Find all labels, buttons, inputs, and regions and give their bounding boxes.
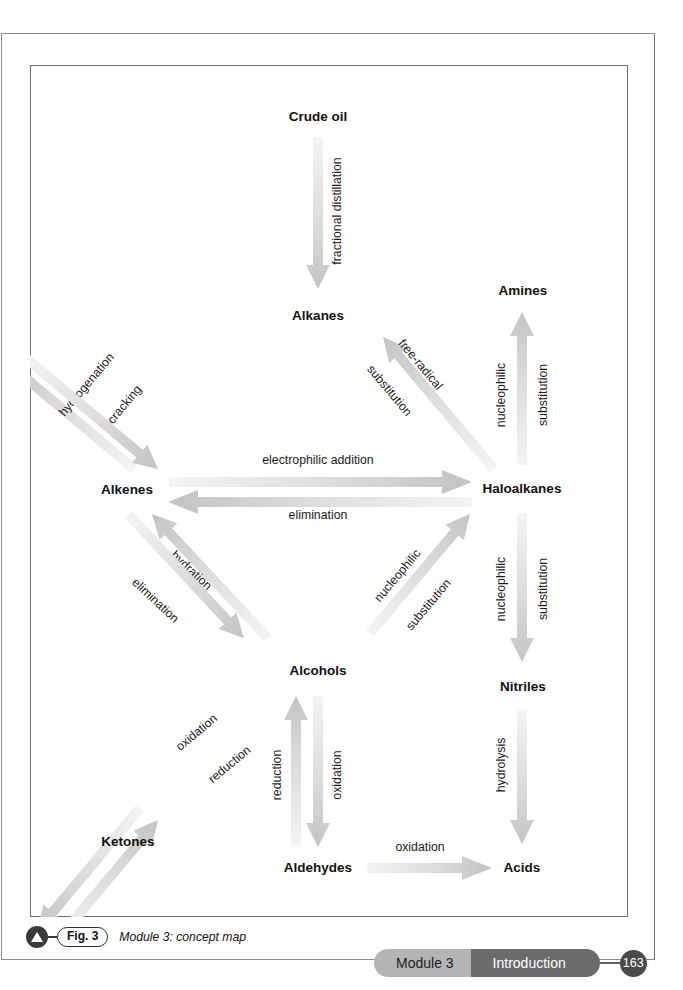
footer-connector-line <box>600 962 620 964</box>
edge-label-oxidation: oxidation <box>330 750 344 799</box>
edge-haloalkanes-to-alcohols: nucleophilic substitution <box>361 506 480 641</box>
edge-label-reduction: reduction <box>270 750 284 801</box>
edge-alcohols-to-alkenes: elimination <box>119 506 252 647</box>
figure-number-badge: Fig. 3 <box>57 927 108 947</box>
node-alkanes: Alkanes <box>292 308 344 323</box>
edge-nitriles-to-acids: hydrolysis <box>494 709 534 844</box>
node-ketones: Ketones <box>101 834 154 849</box>
edge-haloalkanes-to-amines: nucleophilic substitution <box>494 312 550 465</box>
edge-alkanes-to-haloalkanes: free-radical substitution <box>364 329 503 476</box>
node-acids: Acids <box>504 860 541 875</box>
edge-haloalkanes-to-nitriles: nucleophilic substitution <box>494 513 550 662</box>
edge-label-nucleophilic: nucleophilic <box>494 363 508 427</box>
footer-pill: Module 3 Introduction <box>374 949 600 977</box>
edge-ketones-to-alcohols: oxidation <box>30 711 220 917</box>
edge-label-substitution: substitution <box>536 364 550 426</box>
figure-caption-text: Module 3: concept map <box>119 930 246 944</box>
edge-haloalkanes-to-alkenes: elimination <box>168 490 472 522</box>
edge-label-nucleophilic: nucleophilic <box>494 557 508 621</box>
arrow-shape <box>306 137 330 289</box>
arrow-shape <box>169 470 472 494</box>
node-alcohols: Alcohols <box>289 663 346 678</box>
caption-triangle-icon <box>26 926 48 948</box>
edge-label-cracking: cracking <box>104 382 144 426</box>
edge-label-substitution: substitution <box>536 558 550 620</box>
edge-label-elimination: elimination <box>289 508 348 522</box>
arrow-shape <box>284 696 308 847</box>
arrow-shape <box>510 312 534 465</box>
footer-section-label: Introduction <box>471 949 600 977</box>
node-amines: Amines <box>499 283 548 298</box>
figure-caption: Fig. 3 Module 3: concept map <box>26 925 246 949</box>
node-aldehydes: Aldehydes <box>284 860 352 875</box>
edge-label-oxidation: oxidation <box>173 711 220 753</box>
edge-label-elimination: elimination <box>129 575 182 625</box>
arrow-shape <box>143 506 276 647</box>
arrow-shape <box>510 709 534 844</box>
edge-alkenes-to-alcohols: hydration <box>143 506 276 647</box>
page-footer: Module 3 Introduction 163 <box>374 948 647 978</box>
concept-map-figure: fractional distillation hydrogenation cr… <box>30 65 628 917</box>
footer-module-label: Module 3 <box>374 949 471 977</box>
edge-label-oxidation: oxidation <box>395 840 444 854</box>
page-number-badge: 163 <box>620 950 647 977</box>
edge-alkenes-to-haloalkanes: electrophilic addition <box>169 453 472 494</box>
node-nitriles: Nitriles <box>500 679 546 694</box>
edge-aldehydes-to-alcohols: reduction <box>270 696 308 847</box>
caption-connector-line <box>48 936 57 938</box>
edge-label-reduction: reduction <box>206 743 254 786</box>
arrow-shape <box>510 513 534 662</box>
arrow-shape <box>367 856 492 880</box>
edge-alcohols-to-ketones: reduction <box>46 743 254 917</box>
node-crude-oil: Crude oil <box>289 109 348 124</box>
edge-aldehydes-to-acids: oxidation <box>367 840 492 880</box>
edge-crude-oil-to-alkanes: fractional distillation <box>306 137 344 289</box>
edge-alcohols-to-aldehydes: oxidation <box>306 696 344 847</box>
edge-label-fractional-distillation: fractional distillation <box>330 157 344 264</box>
edge-label-hydrolysis: hydrolysis <box>494 738 508 793</box>
node-alkenes: Alkenes <box>101 482 153 497</box>
edge-label-electrophilic-addition: electrophilic addition <box>262 453 374 467</box>
node-haloalkanes: Haloalkanes <box>483 481 562 496</box>
arrow-shape <box>306 696 330 847</box>
